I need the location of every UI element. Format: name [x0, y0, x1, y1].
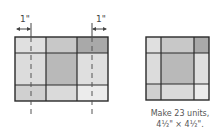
right-cell-r3c1 [146, 84, 161, 100]
measure-left-label: 1" [20, 14, 30, 24]
arrow-left-icon [16, 27, 20, 31]
left-block [15, 37, 108, 101]
right-block [146, 37, 209, 100]
right-cell-r1c1 [146, 37, 161, 53]
right-cell-r3c3 [194, 84, 209, 100]
measure-left: 1" [16, 14, 31, 37]
right-cell-r3c2 [161, 84, 194, 100]
arrow-left-icon [92, 27, 96, 31]
right-cell-r1c3 [194, 37, 209, 53]
measure-right: 1" [92, 14, 107, 37]
right-cell-r2c3 [194, 53, 209, 84]
left-cell-r3c2 [46, 85, 77, 101]
arrow-right-icon [27, 27, 31, 31]
right-cell-r2c1 [146, 53, 161, 84]
caption-line-2: 4½" × 4½". [140, 119, 220, 130]
arrow-right-icon [103, 27, 107, 31]
caption-line-1: Make 23 units, [140, 108, 220, 119]
caption: Make 23 units, 4½" × 4½". [140, 108, 220, 130]
left-cell-r1c2 [46, 37, 77, 53]
measure-right-label: 1" [96, 14, 106, 24]
right-cell-r1c2 [161, 37, 194, 53]
right-cell-r2c2 [161, 53, 194, 84]
left-cell-r2c2 [46, 53, 77, 85]
